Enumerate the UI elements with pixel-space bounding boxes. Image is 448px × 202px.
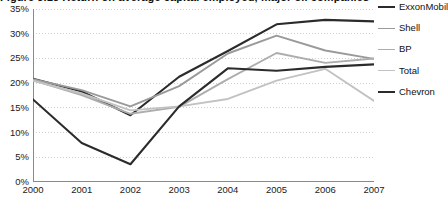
x-axis-tick-label: 2002 bbox=[120, 184, 141, 195]
y-axis-tick-label: 30% bbox=[10, 29, 29, 38]
x-axis-tick-label: 2006 bbox=[315, 184, 336, 195]
legend-label: Shell bbox=[399, 23, 420, 33]
plot-area bbox=[33, 9, 374, 182]
legend-item-chevron[interactable]: Chevron bbox=[378, 86, 435, 98]
x-axis-tick-label: 2007 bbox=[363, 184, 384, 195]
legend-item-exxonmobil[interactable]: ExxonMobil bbox=[378, 1, 448, 13]
legend-item-total[interactable]: Total bbox=[378, 65, 419, 77]
legend-swatch-icon bbox=[378, 28, 395, 29]
y-axis-tick-label: 15% bbox=[10, 103, 29, 112]
legend-item-bp[interactable]: BP bbox=[378, 43, 412, 55]
series-line-chevron bbox=[33, 64, 374, 164]
y-axis-tick-label: 35% bbox=[10, 4, 29, 13]
y-axis-tick-label: 10% bbox=[10, 128, 29, 137]
y-axis-tick-label: 20% bbox=[10, 78, 29, 87]
gridlines bbox=[33, 9, 374, 157]
series-line-total bbox=[33, 69, 374, 111]
chart-svg bbox=[33, 9, 374, 182]
legend-label: BP bbox=[399, 44, 412, 54]
legend-swatch-icon bbox=[378, 70, 395, 71]
x-axis-tick-label: 2005 bbox=[266, 184, 287, 195]
legend-label: Chevron bbox=[399, 87, 435, 97]
legend-item-shell[interactable]: Shell bbox=[378, 22, 420, 34]
series-lines bbox=[33, 20, 374, 164]
legend-swatch-icon bbox=[378, 91, 395, 93]
x-axis-tick-label: 2003 bbox=[169, 184, 190, 195]
x-axis-tick-label: 2004 bbox=[217, 184, 238, 195]
legend-label: ExxonMobil bbox=[399, 2, 448, 12]
x-axis-tick-label: 2001 bbox=[71, 184, 92, 195]
legend-swatch-icon bbox=[378, 49, 395, 50]
legend-label: Total bbox=[399, 66, 419, 76]
x-axis-labels: 20002001200220032004200520062007 bbox=[33, 184, 374, 198]
chart-title: Figure 3.13 Return on average capital em… bbox=[0, 0, 380, 5]
legend-swatch-icon bbox=[378, 6, 395, 8]
y-axis-labels: 0%5%10%15%20%25%30%35% bbox=[0, 9, 29, 182]
x-axis-tick-label: 2000 bbox=[22, 184, 43, 195]
chart-legend: ExxonMobilShellBPTotalChevron bbox=[378, 1, 446, 105]
y-axis-tick-label: 25% bbox=[10, 53, 29, 62]
y-axis-tick-label: 5% bbox=[15, 152, 29, 161]
